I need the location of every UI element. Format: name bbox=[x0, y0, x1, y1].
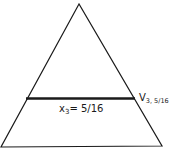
triangle-outline bbox=[1, 4, 162, 147]
triangle-diagram: x3= 5/16 V3, 5/16 bbox=[0, 0, 170, 152]
vertex-label: V3, 5/16 bbox=[139, 92, 169, 105]
cross-line-label: x3= 5/16 bbox=[59, 103, 103, 116]
